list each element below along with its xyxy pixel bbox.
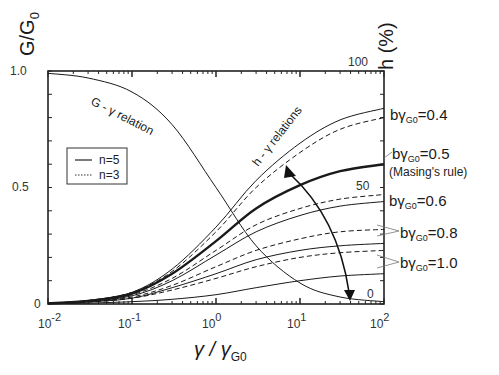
svg-text:102: 102 — [370, 311, 389, 331]
curve-5 — [48, 195, 384, 304]
svg-text:100: 100 — [348, 55, 368, 69]
y-axis-right-title: h (%) — [375, 22, 397, 70]
direction-arrow — [284, 165, 355, 301]
y-left-tick-labels: 1.0 0.5 0 — [10, 64, 41, 311]
x-tick-labels: 10-2 10-1 100 101 102 — [38, 311, 389, 331]
chart: G/G0 h (%) 1.0 0.5 0 100 50 0 10-2 10-1 … — [0, 0, 499, 375]
x-axis-title: γ / γG0 — [194, 338, 247, 364]
svg-text:(Masing's rule): (Masing's rule) — [389, 165, 467, 179]
curve-3 — [48, 164, 384, 303]
svg-text:bγG0=1.0: bγG0=1.0 — [400, 254, 457, 273]
b-labels: bγG0=0.4 bγG0=0.5 (Masing's rule) bγG0=0… — [377, 106, 467, 273]
curve-2 — [48, 118, 384, 304]
svg-text:101: 101 — [287, 311, 306, 331]
svg-text:n=3: n=3 — [99, 168, 120, 182]
y-axis-left-title: G/G0 — [16, 12, 42, 56]
y-right-tick-labels: 100 50 0 — [348, 55, 374, 301]
curve-4 — [48, 202, 384, 304]
svg-text:bγG0=0.4: bγG0=0.4 — [390, 106, 447, 125]
svg-text:0: 0 — [34, 297, 41, 311]
svg-text:1.0: 1.0 — [10, 64, 27, 78]
svg-text:bγG0=0.6: bγG0=0.6 — [389, 192, 446, 211]
svg-text:0.5: 0.5 — [12, 180, 29, 194]
svg-text:100: 100 — [202, 311, 221, 331]
svg-text:10-2: 10-2 — [38, 311, 61, 331]
svg-text:h (%): h (%) — [375, 22, 397, 70]
svg-text:0: 0 — [367, 287, 374, 301]
svg-text:n=5: n=5 — [99, 153, 120, 167]
svg-text:bγG0=0.5: bγG0=0.5 — [392, 145, 449, 164]
svg-text:bγG0=0.8: bγG0=0.8 — [400, 224, 457, 243]
svg-text:50: 50 — [356, 179, 370, 193]
legend: n=5 n=3 — [67, 148, 127, 184]
svg-text:10-1: 10-1 — [118, 311, 141, 331]
svg-text:G/G0: G/G0 — [16, 12, 42, 56]
h-curves-annotation: h - γ relations — [249, 103, 304, 168]
